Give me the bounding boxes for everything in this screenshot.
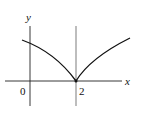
- origin-label: 0: [20, 85, 26, 97]
- curve-right-branch: [76, 38, 130, 81]
- cusp-x-label: 2: [79, 85, 85, 97]
- cusp-point: [75, 80, 78, 83]
- y-axis-label: y: [25, 11, 31, 23]
- x-axis-label: x: [124, 75, 130, 87]
- graph-figure: y x 0 2: [0, 0, 141, 116]
